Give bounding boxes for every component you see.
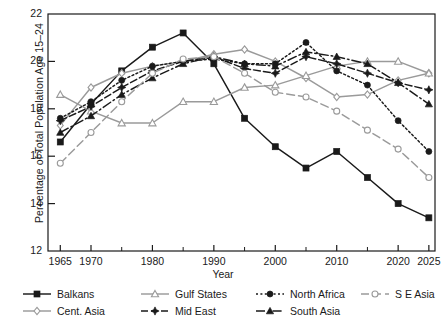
legend-marker [372,291,378,297]
data-point-marker [88,99,94,105]
data-point-marker [57,160,63,166]
y-tick-label: 14 [12,197,42,209]
legend-label: Cent. Asia [57,305,105,317]
legend-item-s-e-asia[interactable]: S E Asia [360,288,435,300]
legend-swatch [255,288,285,300]
legend-swatch [140,288,170,300]
series-balkans [57,30,432,221]
series-north-africa [57,39,432,154]
data-point-marker [88,130,94,136]
data-point-marker [426,148,432,154]
legend-swatch [140,305,170,317]
legend-item-mid-east[interactable]: Mid East [140,305,216,317]
data-point-marker [395,201,401,207]
legend-label: S E Asia [395,288,435,300]
legend-label: South Asia [290,305,340,317]
data-point-marker [334,108,340,114]
y-tick-label: 16 [12,149,42,161]
data-point-marker [425,100,432,106]
legend-swatch [255,305,285,317]
data-point-marker [119,77,125,83]
y-tick-label: 20 [12,54,42,66]
data-point-marker [149,63,155,69]
data-point-marker [242,115,248,121]
data-point-marker [303,94,309,100]
legend-marker [151,307,159,315]
data-point-marker [364,127,370,133]
data-point-marker [426,175,432,181]
chart-figure: Percentage of Total Population Age 15–24… [0,0,446,325]
data-point-marker [180,56,186,62]
data-point-marker [364,91,370,98]
data-point-marker [149,70,155,76]
legend-marker [34,291,40,297]
legend-label: North Africa [290,288,345,300]
legend-swatch [360,288,390,300]
data-point-marker [119,99,125,105]
data-point-marker [395,146,401,152]
data-point-marker [211,54,217,60]
data-point-marker [302,48,309,54]
data-point-marker [57,139,63,145]
data-point-marker [303,165,309,171]
chart-legend: BalkansCent. AsiaGulf StatesMid EastNort… [0,288,446,325]
x-tick-label: 2000 [255,255,295,267]
data-point-marker [57,115,63,121]
legend-marker [34,307,40,314]
data-point-marker [334,93,340,100]
data-point-marker [426,215,432,221]
data-point-marker [57,91,64,97]
legend-marker [267,291,273,297]
data-point-marker [334,148,340,154]
legend-swatch [22,305,52,317]
data-point-marker [395,118,401,124]
x-axis-label: Year [0,268,446,280]
legend-marker [266,307,273,313]
data-point-marker [242,70,248,76]
legend-label: Gulf States [175,288,227,300]
data-point-marker [333,53,340,59]
data-point-marker [149,44,155,50]
y-tick-label: 12 [12,244,42,256]
y-axis-label: Percentage of Total Population Age 15–24 [33,0,45,248]
legend-item-balkans[interactable]: Balkans [22,288,94,300]
x-tick-label: 2025 [409,255,446,267]
data-point-marker [118,91,125,97]
series-line [60,42,429,151]
legend-item-south-asia[interactable]: South Asia [255,305,340,317]
data-point-marker [272,89,278,95]
x-tick-label: 1970 [71,255,111,267]
data-point-marker [272,144,278,150]
data-point-marker [180,30,186,36]
data-point-marker [57,129,64,135]
legend-swatch [22,288,52,300]
data-point-marker [364,175,370,181]
y-tick-label: 18 [12,102,42,114]
legend-item-gulf-states[interactable]: Gulf States [140,288,227,300]
data-point-marker [363,69,371,77]
data-point-marker [242,46,248,53]
x-tick-label: 1990 [194,255,234,267]
legend-label: Mid East [175,305,216,317]
data-point-marker [425,86,433,94]
x-tick-label: 2010 [317,255,357,267]
legend-item-north-africa[interactable]: North Africa [255,288,345,300]
data-point-marker [303,39,309,45]
y-tick-label: 22 [12,7,42,19]
data-point-marker [271,69,279,77]
legend-label: Balkans [57,288,94,300]
x-tick-label: 1980 [132,255,172,267]
data-point-marker [334,68,340,74]
legend-item-cent-asia[interactable]: Cent. Asia [22,305,105,317]
data-point-marker [364,82,370,88]
